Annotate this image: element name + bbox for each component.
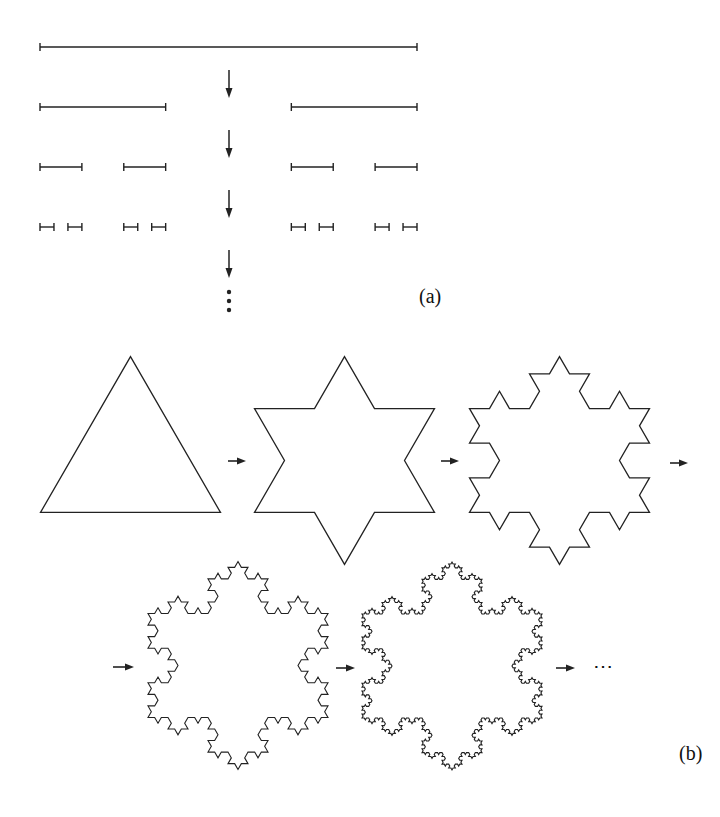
right-arrow-icon <box>336 665 355 672</box>
koch-iteration-2 <box>470 357 650 565</box>
cantor-row-3 <box>40 223 417 231</box>
koch-iteration-4 <box>362 562 542 770</box>
right-arrow-icon <box>228 458 246 465</box>
continuation-dots-icon <box>227 290 231 312</box>
cantor-row-0 <box>40 43 417 51</box>
right-arrow-icon <box>113 664 134 671</box>
right-arrow-icon <box>556 665 575 672</box>
cantor-iteration-arrows <box>226 70 233 278</box>
right-arrow-icon <box>441 458 459 465</box>
koch-snowflake-diagram <box>41 357 650 770</box>
down-arrow-icon <box>226 130 233 158</box>
cantor-row-1 <box>40 103 417 111</box>
panel-b-label: (b) <box>679 742 702 765</box>
cantor-row-2 <box>40 163 417 171</box>
koch-iteration-0 <box>41 357 221 513</box>
koch-iteration-1 <box>255 357 435 565</box>
koch-iteration-arrows <box>113 458 688 672</box>
koch-iteration-3 <box>148 562 328 770</box>
panel-a-label: (a) <box>419 285 441 308</box>
down-arrow-icon <box>226 190 233 218</box>
right-arrow-icon <box>670 460 688 467</box>
figure-canvas <box>0 0 720 817</box>
down-arrow-icon <box>226 250 233 278</box>
down-arrow-icon <box>226 70 233 98</box>
continuation-ellipsis: ⋯ <box>593 654 614 678</box>
